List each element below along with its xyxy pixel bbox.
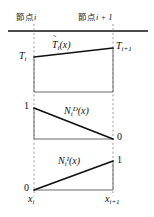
axis-label-x-i-plus-1: xi+1 [105,194,120,206]
node-label-left-prefix: 節点 [16,12,34,22]
value-label-T-i-plus-1: Ti+1 [116,41,132,53]
curve-label-shape-I: NiI(x) [58,156,80,168]
node-label-left: 節点i [16,13,36,22]
panel-temperature-graph [34,48,113,92]
value-label-T-i: Ti [19,51,27,63]
curve-label-shape-D: NiD(x) [64,106,89,118]
curve-label-temperature-arg: (x) [60,39,71,50]
tilde-accent-icon: ˜ [53,34,56,43]
node-label-right-index: i + 1 [96,12,113,22]
node-label-right: 節点i + 1 [78,13,113,22]
value-label-T-i-sub: i [25,55,27,63]
axis-label-x-i: xi [28,194,34,206]
curve-label-shape-I-arg: (x) [69,155,80,166]
curve-label-shape-D-arg: (x) [78,105,89,116]
curve-label-shape-D-base: N [64,105,71,116]
panel1-interpolation-line [34,48,113,57]
curve-label-shape-I-base: N [58,155,65,166]
node-label-left-index: i [34,12,36,22]
axis-label-x-i-sub: i [32,198,34,206]
value-label-I-left-zero: 0 [24,183,29,193]
curve-label-temperature-accent-group: ˜T [52,40,58,50]
value-label-T-i-plus-1-sub: i+1 [122,45,132,53]
value-label-I-right-one: 1 [117,155,122,165]
axis-label-x-i-plus-1-sub: i+1 [109,198,119,206]
curve-label-temperature: ˜Ti(x) [52,40,71,52]
figure-container: 節点i 節点i + 1 ˜Ti(x) Ti Ti+1 NiD(x) 1 0 Ni… [0,0,154,217]
node-label-right-prefix: 節点 [78,12,96,22]
value-label-D-left-one: 1 [24,101,29,111]
value-label-D-right-zero: 0 [117,132,122,142]
